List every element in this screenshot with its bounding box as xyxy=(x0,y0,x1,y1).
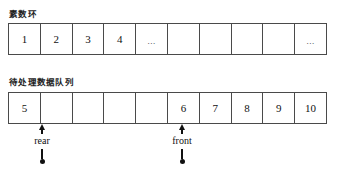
arrow-stem xyxy=(181,130,182,134)
prime-ring-cell-5 xyxy=(168,24,200,54)
pointer-rear-dot-icon xyxy=(40,159,45,164)
pointer-front-tail-line xyxy=(181,149,182,159)
section-label-pending-queue: 待处理数据队列 xyxy=(9,78,74,87)
section-label-prime-ring: 素数环 xyxy=(9,10,37,19)
pending-queue-cell-4 xyxy=(136,93,168,123)
diagram-canvas: 素数环 1 2 3 4 ... ... 待处理数据队列 5 6 7 8 9 10… xyxy=(0,0,337,171)
pointer-front: front xyxy=(152,124,212,164)
pointer-rear-label: rear xyxy=(12,136,72,146)
prime-ring-cell-1: 2 xyxy=(41,24,73,54)
prime-ring-cell-9: ... xyxy=(295,24,326,54)
pointer-rear-tail-line xyxy=(41,149,42,159)
pointer-front-label: front xyxy=(152,136,212,146)
pending-queue-cell-7: 8 xyxy=(232,93,264,123)
prime-ring-cell-3: 4 xyxy=(104,24,136,54)
pending-queue-cell-3 xyxy=(104,93,136,123)
pointer-rear: rear xyxy=(12,124,72,164)
prime-ring-cell-2: 3 xyxy=(73,24,105,54)
pointer-front-dot-icon xyxy=(180,159,185,164)
pending-queue-cell-8: 9 xyxy=(263,93,295,123)
pending-queue-cell-9: 10 xyxy=(295,93,326,123)
prime-ring-cell-0: 1 xyxy=(9,24,41,54)
pending-queue-cell-6: 7 xyxy=(200,93,232,123)
prime-ring-array: 1 2 3 4 ... ... xyxy=(8,23,327,55)
pending-queue-cell-5: 6 xyxy=(168,93,200,123)
pending-queue-cell-1 xyxy=(41,93,73,123)
prime-ring-cell-6 xyxy=(200,24,232,54)
arrow-stem xyxy=(41,130,42,134)
prime-ring-cell-8 xyxy=(263,24,295,54)
pending-queue-array: 5 6 7 8 9 10 xyxy=(8,92,327,124)
pending-queue-cell-0: 5 xyxy=(9,93,41,123)
pending-queue-cell-2 xyxy=(73,93,105,123)
prime-ring-cell-4: ... xyxy=(136,24,168,54)
prime-ring-cell-7 xyxy=(232,24,264,54)
